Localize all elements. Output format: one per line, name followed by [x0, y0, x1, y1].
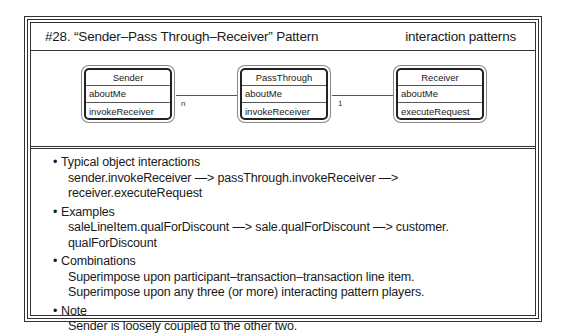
note-line: Sender is loosely coupled to the other t…	[68, 319, 535, 334]
bullet-icon: •	[53, 155, 61, 171]
class-service: invokeReceiver	[86, 103, 170, 120]
bullet-icon: •	[53, 205, 61, 221]
class-service: invokeReceiver	[242, 103, 326, 120]
note-line: Superimpose upon any three (or more) int…	[68, 285, 535, 301]
note-heading: Note	[61, 304, 87, 318]
pattern-card-inner: #28. “Sender–Pass Through–Receiver” Patt…	[30, 22, 536, 316]
note-combinations: •Combinations Superimpose upon participa…	[53, 254, 535, 301]
class-box-receiver: Receiver aboutMe executeRequest	[396, 68, 484, 120]
bullet-icon: •	[53, 304, 61, 320]
note-heading: Combinations	[61, 254, 136, 268]
note-line: saleLineItem.qualForDiscount —> sale.qua…	[68, 220, 535, 251]
pattern-category: interaction patterns	[405, 29, 516, 44]
bullet-icon: •	[53, 254, 61, 270]
class-name: Sender	[86, 70, 170, 86]
association-line-passthrough-receiver	[332, 95, 396, 96]
pattern-title: #28. “Sender–Pass Through–Receiver” Patt…	[45, 29, 318, 44]
multiplicity-label: n	[181, 99, 185, 108]
class-attribute: aboutMe	[242, 86, 326, 103]
class-box-passthrough: PassThrough aboutMe invokeReceiver	[240, 68, 328, 120]
class-attribute: aboutMe	[86, 86, 170, 103]
class-box-sender: Sender aboutMe invokeReceiver	[84, 68, 172, 120]
note-interactions: •Typical object interactions sender.invo…	[53, 155, 535, 202]
note-heading: Typical object interactions	[61, 155, 200, 169]
class-name: Receiver	[398, 70, 482, 86]
class-service: executeRequest	[398, 103, 482, 120]
title-bar: #28. “Sender–Pass Through–Receiver” Patt…	[31, 23, 535, 51]
note-note: •Note Sender is loosely coupled to the o…	[53, 304, 535, 334]
note-line: Superimpose upon participant–transaction…	[68, 270, 535, 286]
multiplicity-label: 1	[338, 99, 342, 108]
note-line: sender.invokeReceiver —> passThrough.inv…	[68, 171, 535, 202]
note-examples: •Examples saleLineItem.qualForDiscount —…	[53, 205, 535, 252]
notes-section: •Typical object interactions sender.invo…	[31, 149, 535, 315]
class-attribute: aboutMe	[398, 86, 482, 103]
note-heading: Examples	[61, 205, 115, 219]
class-name: PassThrough	[242, 70, 326, 86]
class-diagram: Sender aboutMe invokeReceiver n PassThro…	[31, 51, 535, 149]
pattern-card: #28. “Sender–Pass Through–Receiver” Patt…	[27, 19, 539, 319]
association-line-sender-passthrough	[176, 95, 240, 96]
